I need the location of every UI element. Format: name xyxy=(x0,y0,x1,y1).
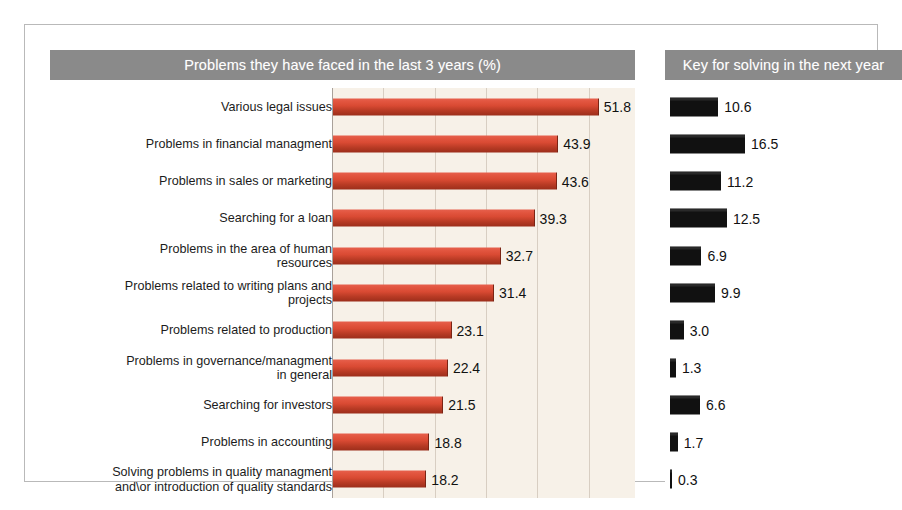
bar-group: 22.4 xyxy=(333,359,480,376)
key-bar-value-label: 6.9 xyxy=(707,248,726,264)
category-label: Searching for a loan xyxy=(62,211,332,226)
chart-row: Problems related to writing plans andpro… xyxy=(50,274,635,311)
bar-value-label: 43.9 xyxy=(563,136,590,152)
key-row: 1.3 xyxy=(665,349,902,386)
category-label-line1: Searching for a loan xyxy=(62,211,332,226)
category-label-line2: resources xyxy=(62,256,332,271)
key-bar-group: 6.9 xyxy=(670,246,727,265)
key-bar xyxy=(670,321,684,340)
bar xyxy=(333,322,452,339)
bar-group: 23.1 xyxy=(333,322,484,339)
bar-value-label: 31.4 xyxy=(499,285,526,301)
key-bar xyxy=(670,246,701,265)
chart-row: Problems related to production23.1 xyxy=(50,312,635,349)
category-label: Problems in accounting xyxy=(62,435,332,450)
key-bar-group: 1.3 xyxy=(670,358,701,377)
key-row: 6.6 xyxy=(665,386,902,423)
key-bar-rows: 10.616.511.212.56.99.93.01.36.61.70.3 xyxy=(665,88,902,498)
key-row: 6.9 xyxy=(665,237,902,274)
bar xyxy=(333,247,501,264)
key-bar-group: 1.7 xyxy=(670,433,703,452)
bar-group: 32.7 xyxy=(333,247,533,264)
bar-value-label: 18.8 xyxy=(434,434,461,450)
chart-row: Searching for investors21.5 xyxy=(50,386,635,423)
category-label-line1: Problems in sales or marketing xyxy=(62,174,332,189)
category-label: Problems in financial managment xyxy=(62,137,332,152)
bar-group: 31.4 xyxy=(333,284,526,301)
key-bar-value-label: 3.0 xyxy=(690,322,709,338)
key-row: 1.7 xyxy=(665,423,902,460)
bar-value-label: 43.6 xyxy=(562,173,589,189)
category-label-line1: Solving problems in quality managment xyxy=(62,465,332,480)
bar-rows: Various legal issues51.8Problems in fina… xyxy=(50,88,635,498)
chart-figure: Problems they have faced in the last 3 y… xyxy=(0,0,902,510)
key-bar-group: 12.5 xyxy=(670,209,760,228)
bar-group: 18.2 xyxy=(333,471,459,488)
category-label-line1: Problems in the area of human xyxy=(62,241,332,256)
key-bar-value-label: 16.5 xyxy=(751,136,778,152)
category-label-line2: in general xyxy=(62,368,332,383)
bar xyxy=(333,135,558,152)
key-bar-group: 9.9 xyxy=(670,283,741,302)
key-bar-value-label: 1.3 xyxy=(682,360,701,376)
key-bar xyxy=(670,97,718,116)
chart-row: Problems in accounting18.8 xyxy=(50,423,635,460)
chart-row: Problems in sales or marketing43.6 xyxy=(50,163,635,200)
key-bar xyxy=(670,395,700,414)
bar xyxy=(333,471,426,488)
category-label: Problems related to production xyxy=(62,323,332,338)
bar xyxy=(333,396,443,413)
key-bar-value-label: 10.6 xyxy=(724,99,751,115)
key-bar-group: 6.6 xyxy=(670,395,725,414)
bar xyxy=(333,173,557,190)
bar-value-label: 21.5 xyxy=(448,397,475,413)
left-panel-title: Problems they have faced in the last 3 y… xyxy=(50,50,635,80)
bar-value-label: 32.7 xyxy=(506,248,533,264)
category-label-line1: Problems in accounting xyxy=(62,435,332,450)
key-bar-group: 10.6 xyxy=(670,97,751,116)
key-bar-group: 16.5 xyxy=(670,134,778,153)
right-panel-title: Key for solving in the next year xyxy=(665,50,902,80)
right-chart-panel: 10.616.511.212.56.99.93.01.36.61.70.3 xyxy=(665,80,902,506)
key-bar xyxy=(670,358,676,377)
category-label: Searching for investors xyxy=(62,398,332,413)
key-bar-value-label: 11.2 xyxy=(727,173,753,189)
category-label-line1: Searching for investors xyxy=(62,398,332,413)
category-label-line1: Problems related to writing plans and xyxy=(62,278,332,293)
key-bar-group: 11.2 xyxy=(670,172,753,191)
category-label: Problems in the area of humanresources xyxy=(62,241,332,270)
bar xyxy=(333,359,448,376)
bar-group: 21.5 xyxy=(333,396,476,413)
left-chart-panel: Various legal issues51.8Problems in fina… xyxy=(50,80,635,506)
bar-value-label: 18.2 xyxy=(431,471,458,487)
chart-row: Problems in financial managment43.9 xyxy=(50,125,635,162)
key-bar xyxy=(670,172,721,191)
bar-group: 51.8 xyxy=(333,98,631,115)
key-bar xyxy=(670,433,678,452)
bar xyxy=(333,434,429,451)
bar-group: 39.3 xyxy=(333,210,567,227)
chart-row: Problems in the area of humanresources32… xyxy=(50,237,635,274)
category-label-line1: Problems in financial managment xyxy=(62,137,332,152)
chart-row: Searching for a loan39.3 xyxy=(50,200,635,237)
key-row: 16.5 xyxy=(665,125,902,162)
key-bar-value-label: 0.3 xyxy=(678,471,697,487)
key-row: 3.0 xyxy=(665,312,902,349)
bar-value-label: 39.3 xyxy=(540,210,567,226)
key-row: 11.2 xyxy=(665,163,902,200)
chart-row: Various legal issues51.8 xyxy=(50,88,635,125)
category-label: Problems in governance/managmentin gener… xyxy=(62,353,332,382)
figure-frame: Problems they have faced in the last 3 y… xyxy=(24,24,878,482)
key-bar-value-label: 1.7 xyxy=(684,434,703,450)
category-label: Various legal issues xyxy=(62,99,332,114)
key-row: 12.5 xyxy=(665,200,902,237)
key-bar xyxy=(670,134,745,153)
key-bar xyxy=(670,209,727,228)
chart-row: Solving problems in quality managmentand… xyxy=(50,461,635,498)
bar-group: 43.6 xyxy=(333,173,589,190)
category-label-line2: and\or introduction of quality standards xyxy=(62,479,332,494)
category-label-line2: projects xyxy=(62,293,332,308)
key-bar-value-label: 6.6 xyxy=(706,397,725,413)
category-label-line1: Various legal issues xyxy=(62,99,332,114)
category-label: Problems related to writing plans andpro… xyxy=(62,278,332,307)
